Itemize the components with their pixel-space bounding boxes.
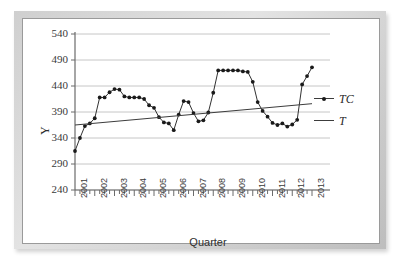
data-point-tc: [127, 96, 131, 100]
data-point-tc: [226, 69, 230, 73]
data-point-tc: [172, 128, 176, 132]
data-point-tc: [201, 118, 205, 122]
data-point-tc: [300, 83, 304, 87]
data-point-tc: [211, 91, 215, 95]
y-tick-label: 390: [34, 105, 68, 117]
data-point-tc: [162, 121, 166, 125]
y-tick-label: 540: [34, 27, 68, 39]
data-point-tc: [216, 69, 220, 73]
x-tick-label: 2002: [99, 178, 109, 198]
y-tick-label: 290: [34, 157, 68, 169]
x-tick-label: 2008: [217, 178, 227, 198]
data-point-tc: [251, 80, 255, 84]
x-tick-label: 2001: [79, 178, 89, 198]
data-point-tc: [98, 96, 102, 100]
legend-marker-line-icon: [312, 115, 336, 127]
y-axis-title: Y: [38, 126, 53, 135]
legend-item-tc: TC: [312, 88, 372, 110]
x-tick-label: 2006: [178, 178, 188, 198]
data-point-tc: [152, 106, 156, 110]
x-tick-label: 2010: [257, 178, 267, 198]
data-point-tc: [147, 103, 151, 107]
x-axis-title: Quarter: [148, 236, 268, 248]
data-point-tc: [132, 96, 136, 100]
data-point-tc: [231, 69, 235, 73]
data-point-tc: [73, 149, 77, 153]
data-point-tc: [122, 95, 126, 99]
series-line-trend: [75, 104, 312, 125]
data-point-tc: [93, 116, 97, 120]
y-tick-label: 240: [34, 183, 68, 195]
data-point-tc: [236, 69, 240, 73]
data-point-tc: [221, 69, 225, 73]
data-point-tc: [241, 70, 245, 74]
data-point-tc: [276, 123, 280, 127]
data-point-tc: [118, 88, 122, 92]
data-point-tc: [266, 115, 270, 119]
data-point-tc: [271, 121, 275, 125]
data-point-tc: [78, 136, 82, 140]
data-point-tc: [197, 119, 201, 123]
chart-legend: TC T: [312, 88, 372, 132]
x-tick-label: 2009: [237, 178, 247, 198]
legend-marker-dot-icon: [312, 93, 336, 105]
x-tick-label: 2007: [198, 178, 208, 198]
x-tick-label: 2005: [158, 178, 168, 198]
y-tick-label: 440: [34, 79, 68, 91]
data-point-tc: [108, 90, 112, 94]
data-point-tc: [285, 125, 289, 129]
data-point-tc: [290, 123, 294, 127]
data-point-tc: [167, 122, 171, 126]
data-point-tc: [246, 70, 250, 74]
x-tick-label: 2004: [138, 178, 148, 198]
x-tick-label: 2012: [296, 178, 306, 198]
y-tick-label: 490: [34, 53, 68, 65]
data-point-tc: [256, 100, 260, 104]
data-point-tc: [142, 97, 146, 101]
x-tick-label: 2011: [277, 179, 287, 198]
data-point-tc: [187, 100, 191, 104]
data-point-tc: [295, 118, 299, 122]
data-point-tc: [305, 74, 309, 78]
data-point-tc: [261, 109, 265, 113]
legend-item-t: T: [312, 110, 372, 132]
x-tick-label: 2013: [316, 178, 326, 198]
data-point-tc: [113, 87, 117, 91]
screenshot-root: 240290340390440490540 200120022003200420…: [0, 0, 400, 266]
data-point-tc: [182, 99, 186, 103]
data-point-tc: [137, 96, 141, 100]
x-tick-label: 2003: [119, 178, 129, 198]
data-point-tc: [103, 96, 107, 100]
legend-label-t: T: [336, 114, 346, 129]
legend-label-tc: TC: [336, 92, 354, 107]
data-point-tc: [310, 65, 314, 69]
data-point-tc: [280, 122, 284, 126]
